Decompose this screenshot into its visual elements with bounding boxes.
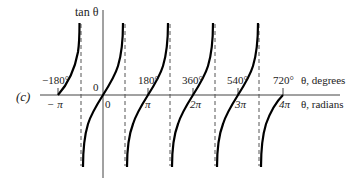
radian-tick-label: 4π bbox=[279, 98, 291, 110]
y-axis-label: tan θ bbox=[75, 5, 99, 19]
degree-tick-label: 360° bbox=[182, 74, 203, 86]
radian-tick-label: − π bbox=[47, 98, 63, 110]
x-axis-degrees-label: θ, degrees bbox=[301, 74, 345, 86]
origin-label-radians: 0 bbox=[105, 98, 111, 110]
degree-tick-label: 540° bbox=[227, 74, 248, 86]
tangent-graph: tan θ (c) 0 0 −180° 180° 360° 540° 720° … bbox=[0, 0, 356, 183]
radian-tick-label: π bbox=[145, 98, 151, 110]
radian-tick-label: 2π bbox=[190, 98, 202, 110]
x-axis-radians-label: θ, radians bbox=[301, 98, 344, 110]
degree-tick-label: −180° bbox=[42, 74, 69, 86]
origin-label-degrees: 0 bbox=[93, 81, 99, 93]
radian-tick-label: 3π bbox=[234, 98, 247, 110]
degree-tick-label: 180° bbox=[138, 74, 159, 86]
panel-label: (c) bbox=[16, 89, 30, 104]
degree-tick-label: 720° bbox=[273, 74, 294, 86]
